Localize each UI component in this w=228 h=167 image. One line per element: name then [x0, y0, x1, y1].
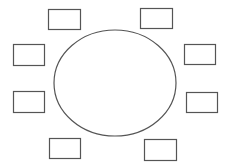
seat-right-upper	[185, 45, 216, 65]
seat-bottom-right	[145, 140, 177, 161]
seat-left-lower	[14, 92, 45, 113]
seat-bottom-left	[50, 139, 81, 159]
seats-group	[14, 9, 218, 161]
seat-top-right	[141, 9, 173, 29]
seat-left-upper	[14, 45, 45, 66]
table-ellipse	[54, 30, 176, 136]
seat-top-left	[49, 10, 81, 30]
seat-right-lower	[187, 93, 218, 113]
seating-diagram	[0, 0, 228, 167]
